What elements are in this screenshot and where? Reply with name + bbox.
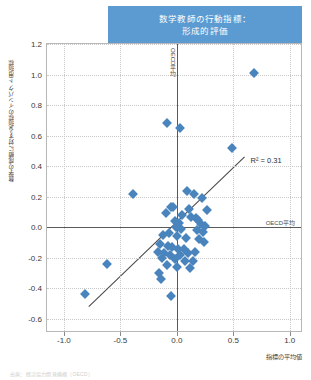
plot-inner: OECD平均OECD平均R² = 0.31 <box>47 44 301 331</box>
x-tick-label: 1.0 <box>284 336 295 345</box>
gridline-vertical <box>233 44 234 331</box>
gridline-horizontal <box>47 319 301 320</box>
y-tick-label: -0.6 <box>28 314 42 323</box>
y-tick-label: 0.0 <box>31 223 42 232</box>
x-axis-title: 指標の平均値 <box>266 352 302 361</box>
gridline-vertical <box>290 44 291 331</box>
y-tick-label: 1.2 <box>31 40 42 49</box>
y-tick-label: 0.2 <box>31 192 42 201</box>
x-axis-ticks: -1.0-0.50.00.51.0 <box>46 336 302 350</box>
y-axis-ticks: -0.6-0.4-0.20.00.20.40.60.81.01.2 <box>0 43 42 332</box>
chart-footnote: 出典：経済協力開発機構（OECD） <box>10 370 93 377</box>
y-tick-label: 0.8 <box>31 101 42 110</box>
gridline-horizontal <box>47 105 301 106</box>
gridline-horizontal <box>47 44 301 45</box>
oecd-average-label-horizontal: OECD平均 <box>266 218 295 227</box>
gridline-horizontal <box>47 166 301 167</box>
gridline-horizontal <box>47 136 301 137</box>
chart-title-banner: 数学教師の行動指標： 形成的評価 <box>108 6 302 43</box>
gridline-vertical <box>64 44 65 331</box>
oecd-average-line-vertical <box>177 44 178 331</box>
plot-area: OECD平均OECD平均R² = 0.31 <box>46 43 302 332</box>
oecd-average-label-vertical: OECD平均 <box>169 48 178 77</box>
gridline-vertical <box>120 44 121 331</box>
y-tick-label: 0.4 <box>31 162 42 171</box>
gridline-horizontal <box>47 197 301 198</box>
chart-figure: 数学教師の行動指標： 形成的評価 数学の成績に対する指標のインパクト用指標 -0… <box>0 0 311 380</box>
chart-title-line2: 形成的評価 <box>182 25 228 37</box>
y-tick-label: 1.0 <box>31 70 42 79</box>
y-tick-label: -0.2 <box>28 253 42 262</box>
x-tick-label: -1.0 <box>57 336 71 345</box>
x-tick-label: -0.5 <box>113 336 127 345</box>
x-tick-label: 0.0 <box>171 336 182 345</box>
x-tick-label: 0.5 <box>228 336 239 345</box>
y-tick-label: 0.6 <box>31 131 42 140</box>
chart-title-line1: 数学教師の行動指標： <box>159 13 251 25</box>
y-tick-label: -0.4 <box>28 284 42 293</box>
r-squared-label: R² = 0.31 <box>251 156 282 165</box>
